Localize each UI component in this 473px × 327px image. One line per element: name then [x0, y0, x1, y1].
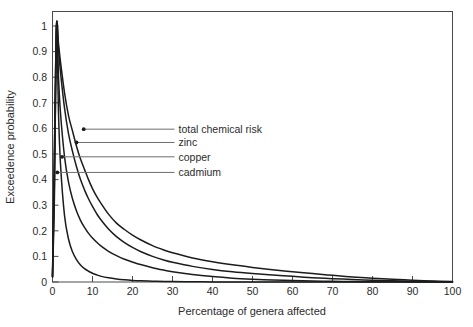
leader-anchor-dot — [75, 141, 79, 145]
y-tick-label: 0.6 — [32, 122, 47, 134]
y-axis-title: Exceedence probability — [4, 90, 16, 204]
data-curves — [53, 21, 453, 282]
curve-total-chemical-risk — [53, 21, 453, 281]
chart-figure: 0102030405060708090100 00.10.20.30.40.50… — [0, 0, 473, 327]
leader-anchor-dot — [60, 155, 64, 159]
y-tick-label: 0.7 — [32, 97, 47, 109]
x-tick-label: 50 — [247, 285, 259, 297]
x-tick-label: 70 — [327, 285, 339, 297]
x-tick-label: 60 — [287, 285, 299, 297]
y-tick-label: 0.4 — [32, 173, 47, 185]
y-tick-label: 0.3 — [32, 199, 47, 211]
legend-label-zinc: zinc — [179, 136, 198, 148]
y-tick-label: 0.5 — [32, 148, 47, 160]
curve-copper — [53, 23, 453, 282]
leader-anchor-dot — [82, 127, 86, 131]
x-tick-label: 80 — [367, 285, 379, 297]
x-axis-title: Percentage of genera affected — [178, 305, 326, 317]
y-tick-label: 0 — [41, 276, 47, 288]
x-tick-label: 10 — [87, 285, 99, 297]
exceedence-probability-chart: 0102030405060708090100 00.10.20.30.40.50… — [0, 0, 473, 327]
legend-label-cadmium: cadmium — [179, 166, 222, 178]
curve-cadmium — [53, 24, 453, 282]
x-tick-label: 0 — [50, 285, 56, 297]
legend-label-total-chemical-risk: total chemical risk — [179, 123, 263, 135]
x-tick-label: 20 — [127, 285, 139, 297]
leader-anchor-dot — [55, 171, 59, 175]
y-tick-label: 0.2 — [32, 225, 47, 237]
legend-labels: total chemical riskzinccoppercadmium — [179, 123, 263, 178]
y-tick-label: 0.8 — [32, 71, 47, 83]
y-tick-label: 1 — [41, 20, 47, 32]
x-tick-label: 100 — [444, 285, 462, 297]
plot-frame — [53, 12, 453, 283]
y-tick-label: 0.9 — [32, 45, 47, 57]
x-tick-label: 30 — [167, 285, 179, 297]
curve-zinc — [53, 21, 453, 282]
y-tick-label: 0.1 — [32, 250, 47, 262]
legend-label-copper: copper — [179, 151, 212, 163]
x-tick-label: 40 — [207, 285, 219, 297]
x-tick-label: 90 — [407, 285, 419, 297]
